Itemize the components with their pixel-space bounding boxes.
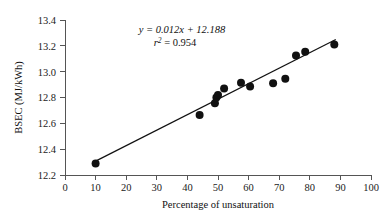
x-tick-label: 90 — [335, 182, 346, 193]
y-tick-label: 12.4 — [38, 144, 57, 155]
x-tick-label: 10 — [90, 182, 101, 193]
y-tick-label: 13.2 — [38, 41, 56, 52]
x-tick-label: 20 — [121, 182, 132, 193]
y-tick-label: 13.4 — [38, 15, 57, 26]
y-tick-label: 13.0 — [38, 67, 56, 78]
x-tick-label: 60 — [243, 182, 254, 193]
regression-equation-annotation: y = 0.012x + 12.188 r2 = 0.954 — [138, 24, 226, 48]
x-tick-label: 50 — [213, 182, 224, 193]
x-tick-label: 30 — [152, 182, 163, 193]
data-point — [92, 159, 100, 167]
x-tick-label: 70 — [274, 182, 285, 193]
x-tick-label: 100 — [363, 182, 379, 193]
x-axis-tick-labels: 0 10 20 30 40 50 60 70 80 90 100 — [62, 182, 379, 193]
x-tick-label: 0 — [62, 182, 67, 193]
r-value: = 0.954 — [162, 37, 198, 48]
y-axis-title: BSEC (MJ/kWh) — [13, 61, 25, 134]
y-tick-label: 12.8 — [38, 92, 56, 103]
y-tick-label: 12.6 — [38, 118, 56, 129]
data-point — [220, 85, 228, 93]
y-axis-ticks — [60, 20, 65, 175]
chart-plot-area: 12.2 12.4 12.6 12.8 13.0 13.2 13.4 0 10 — [0, 0, 390, 216]
equation-label: y = 0.012x + 12.188 — [138, 24, 226, 35]
scatter-chart: 12.2 12.4 12.6 12.8 13.0 13.2 13.4 0 10 — [0, 0, 390, 216]
data-point — [196, 111, 204, 119]
data-point — [237, 79, 245, 87]
x-tick-label: 40 — [182, 182, 193, 193]
data-point — [330, 41, 338, 49]
data-point — [246, 83, 254, 91]
data-point — [214, 91, 222, 99]
data-point — [292, 52, 300, 60]
x-tick-label: 80 — [305, 182, 316, 193]
x-axis-title: Percentage of unsaturation — [162, 199, 275, 210]
data-point — [301, 48, 309, 56]
y-tick-label: 12.2 — [38, 170, 56, 181]
data-points-group — [92, 41, 339, 168]
y-axis-tick-labels: 12.2 12.4 12.6 12.8 13.0 13.2 13.4 — [38, 15, 57, 181]
r-squared-label: r2 = 0.954 — [154, 36, 197, 48]
data-point — [269, 79, 277, 87]
x-axis-ticks — [65, 175, 371, 180]
data-point — [281, 75, 289, 83]
